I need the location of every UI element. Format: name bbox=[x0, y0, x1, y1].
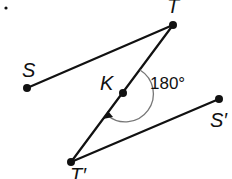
rotation-arc bbox=[107, 70, 153, 122]
label-s: S bbox=[22, 59, 36, 81]
angle-label: 180° bbox=[150, 74, 185, 93]
point-s-prime bbox=[215, 95, 223, 103]
label-s-prime: S′ bbox=[210, 109, 228, 131]
label-t-prime: T′ bbox=[70, 164, 87, 179]
point-s bbox=[23, 84, 31, 92]
point-t bbox=[169, 21, 177, 29]
label-t: T bbox=[167, 0, 181, 17]
label-k: K bbox=[100, 72, 115, 94]
point-k bbox=[119, 89, 127, 97]
corner-marker-dot bbox=[4, 6, 7, 9]
rotation-diagram: T S K S′ T′ 180° bbox=[0, 0, 232, 179]
